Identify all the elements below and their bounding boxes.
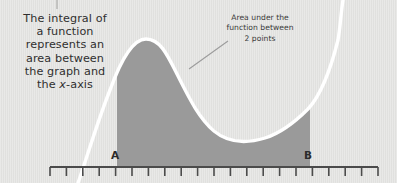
annotation-line-1: Area under the bbox=[203, 13, 317, 23]
leader-line bbox=[189, 41, 228, 69]
caption-line-2: a function bbox=[6, 25, 124, 38]
integral-area-diagram: The integral of a function represents an… bbox=[0, 0, 397, 183]
caption-line-6-suffix: -axis bbox=[66, 78, 93, 91]
upper-bound-label-b: B bbox=[304, 150, 312, 161]
caption-line-6-prefix: the bbox=[37, 78, 59, 91]
shaded-area-under-curve bbox=[117, 39, 310, 167]
annotation-line-2: function between bbox=[203, 23, 317, 33]
caption-line-4: area between bbox=[6, 52, 124, 65]
annotation-line-3: 2 points bbox=[203, 34, 317, 44]
caption-line-6: the x-axis bbox=[6, 78, 124, 91]
caption-line-5: the graph and bbox=[6, 65, 124, 78]
lower-bound-label-a: A bbox=[111, 150, 119, 161]
caption-line-1: The integral of bbox=[6, 12, 124, 25]
caption-line-3: represents an bbox=[6, 38, 124, 51]
x-axis-ticks bbox=[50, 167, 378, 176]
integral-description-caption: The integral of a function represents an… bbox=[6, 12, 124, 91]
area-annotation-callout: Area under the function between 2 points bbox=[203, 13, 317, 44]
